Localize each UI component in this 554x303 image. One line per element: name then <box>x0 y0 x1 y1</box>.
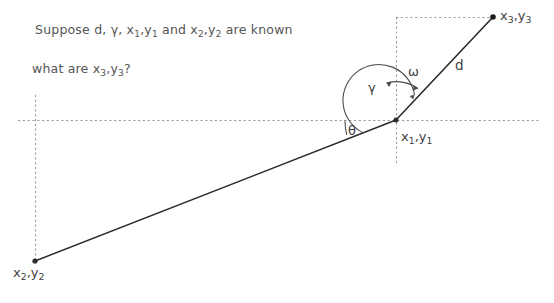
prompt-line-2: what are x3,y3? <box>32 62 131 78</box>
omega-angle-label: ω <box>408 65 419 79</box>
segment-x2y2-to-x1y1 <box>35 120 396 261</box>
prompt-line-1-mid3: ,y <box>204 22 216 37</box>
point-label-x1y1: x1,y1 <box>401 130 432 146</box>
point-label-x3y3-sep: ,y <box>514 8 526 23</box>
theta-angle-arc <box>345 121 347 135</box>
prompt-line-2-mid1: ,y <box>106 61 118 76</box>
theta-angle-label: θ <box>348 124 356 138</box>
point-label-x3y3-x: x <box>500 8 508 23</box>
point-label-x1y1-suby: 1 <box>426 135 432 146</box>
geometry-figure <box>0 0 554 303</box>
point-label-x2y2: x2,y2 <box>13 266 44 282</box>
point-dot-x3y3 <box>490 14 496 20</box>
prompt-line-1-suffix: are known <box>222 22 293 37</box>
prompt-line-1-prefix: Suppose d, γ, x <box>35 22 134 37</box>
point-label-x1y1-x: x <box>401 129 409 144</box>
point-dot-x2y2 <box>32 258 37 263</box>
point-label-x3y3-suby: 3 <box>525 14 531 25</box>
prompt-line-2-prefix: what are x <box>32 61 100 76</box>
distance-label-d: d <box>455 58 464 73</box>
prompt-line-1: Suppose d, γ, x1,y1 and x2,y2 are known <box>35 23 293 39</box>
prompt-line-2-suffix: ? <box>124 61 131 76</box>
prompt-line-1-mid2: and x <box>158 22 198 37</box>
point-label-x3y3: x3,y3 <box>500 9 531 25</box>
point-label-x2y2-x: x <box>13 265 21 280</box>
point-dot-x1y1 <box>394 118 399 123</box>
point-label-x1y1-sep: ,y <box>415 129 427 144</box>
diagram-canvas: Suppose d, γ, x1,y1 and x2,y2 are known … <box>0 0 554 303</box>
gamma-angle-label: γ <box>368 81 376 95</box>
omega-arrowhead-left <box>387 82 392 87</box>
prompt-line-1-mid1: ,y <box>140 22 152 37</box>
gamma-arrowhead <box>410 95 415 100</box>
point-label-x2y2-sep: ,y <box>27 265 39 280</box>
point-label-x2y2-suby: 2 <box>38 271 44 282</box>
